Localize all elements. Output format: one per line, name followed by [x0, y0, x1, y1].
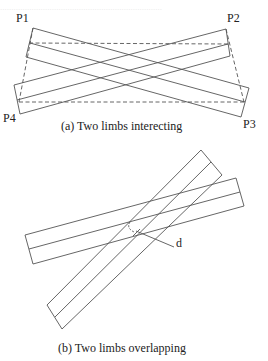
label-p1: P1	[16, 11, 29, 26]
distance-arc	[129, 222, 134, 232]
figure-a	[14, 28, 249, 117]
label-p2: P2	[227, 11, 240, 26]
limb-horizontal	[25, 178, 244, 264]
figure-b	[25, 150, 244, 329]
caption-b: (b) Two limbs overlapping	[58, 341, 186, 356]
label-p4: P4	[3, 111, 16, 126]
limb-ascending	[14, 29, 230, 114]
distance-leader	[136, 231, 174, 247]
limb-horizontal-midline	[29, 192, 240, 249]
label-p3: P3	[243, 117, 256, 132]
label-d: d	[176, 236, 182, 251]
caption-a: (a) Two limbs interecting	[61, 119, 182, 134]
limb-diagonal-midline	[55, 162, 211, 317]
diagram-canvas	[0, 0, 268, 361]
